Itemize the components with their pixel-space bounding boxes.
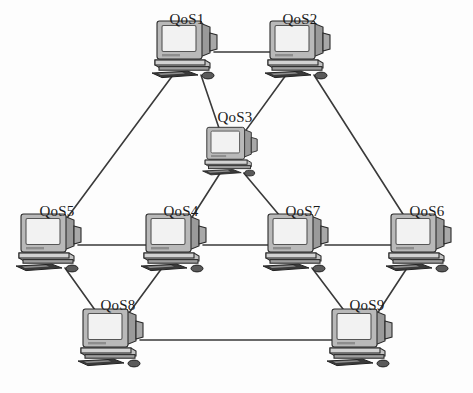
node-label-qos4: QoS4 <box>164 203 199 220</box>
node-label-qos7: QoS7 <box>286 203 321 220</box>
node-label-qos1: QoS1 <box>170 11 205 28</box>
edge-qos1-qos5 <box>64 75 173 222</box>
network-diagram-canvas: QoS1QoS2QoS3QoS5QoS4QoS7QoS6QoS8QoS9 <box>0 0 473 393</box>
edge-qos2-qos6 <box>314 75 408 222</box>
desktop-computer-icon <box>199 121 265 184</box>
node-label-qos2: QoS2 <box>283 11 318 28</box>
node-label-qos5: QoS5 <box>40 203 75 220</box>
node-label-qos6: QoS6 <box>410 203 445 220</box>
node-label-qos9: QoS9 <box>350 297 385 314</box>
node-label-qos3: QoS3 <box>218 109 253 126</box>
edge-layer <box>0 0 473 393</box>
node-label-qos8: QoS8 <box>101 297 136 314</box>
